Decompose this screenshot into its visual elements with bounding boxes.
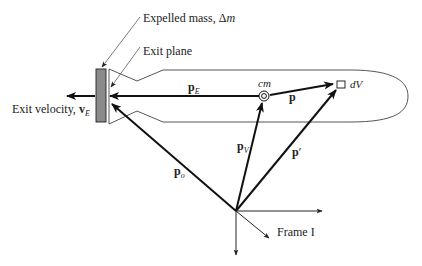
dV-label: dV	[350, 78, 364, 90]
p-arrow	[270, 84, 333, 95]
center-of-mass-icon	[259, 91, 269, 101]
exit-velocity-label: Exit velocity, vE	[12, 102, 90, 118]
expelled-mass-label: Expelled mass, Δm	[143, 11, 235, 25]
exit-plane-label: Exit plane	[143, 44, 192, 58]
expelled-mass-leader	[102, 17, 140, 67]
frame-z-axis	[236, 211, 269, 238]
exit-plane-leader	[111, 47, 140, 87]
po-arrow	[112, 104, 236, 211]
pprime-label: p′	[292, 145, 302, 159]
p-label: p	[289, 90, 296, 104]
expelled-mass-block	[96, 69, 106, 122]
frame-label: Frame I	[277, 225, 315, 239]
nozzle-bottom	[109, 111, 163, 124]
nozzle-top	[109, 69, 163, 81]
pE-label: pE	[188, 80, 200, 96]
pV-label: pV	[237, 139, 250, 155]
rocket-diagram: Expelled mass, Δm Exit plane Exit veloci…	[0, 0, 422, 266]
cm-label: cm	[258, 77, 271, 89]
volume-element-icon	[337, 81, 345, 88]
